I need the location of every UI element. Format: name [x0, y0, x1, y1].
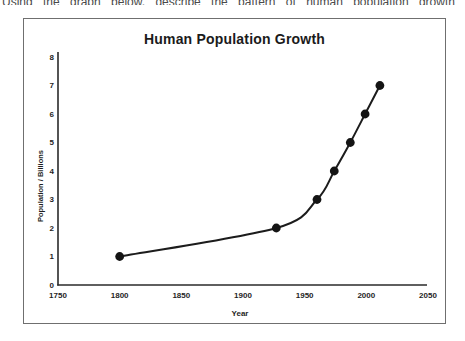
chart-title: Human Population Growth	[144, 31, 325, 47]
cropped-caption-text: Using the graph below, describe the patt…	[0, 0, 455, 5]
x-axis-title: Year	[232, 309, 249, 318]
worksheet-page: Using the graph below, describe the patt…	[0, 0, 465, 341]
y-axis-title: Population / Billions	[36, 150, 45, 222]
cropped-caption: Using the graph below, describe the patt…	[0, 0, 465, 5]
chart-frame: Human Population Growth	[23, 18, 446, 324]
